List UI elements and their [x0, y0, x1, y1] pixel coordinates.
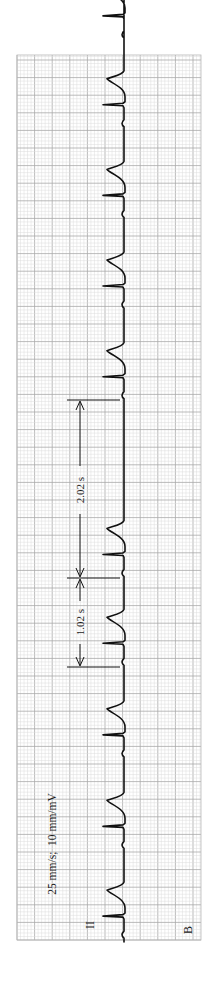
calibration-label: 25 mm/s; 10 mm/mV: [46, 793, 58, 895]
interval-long-label: 2.02 s: [74, 477, 86, 503]
interval-short-label: 1.02 s: [74, 609, 86, 635]
lead-label: II: [83, 921, 97, 929]
paper-background: [0, 0, 212, 981]
ecg-figure: 2.02 s 1.02 s 25 mm/s; 10 mm/mV II B: [0, 0, 212, 981]
panel-label: B: [181, 926, 195, 934]
